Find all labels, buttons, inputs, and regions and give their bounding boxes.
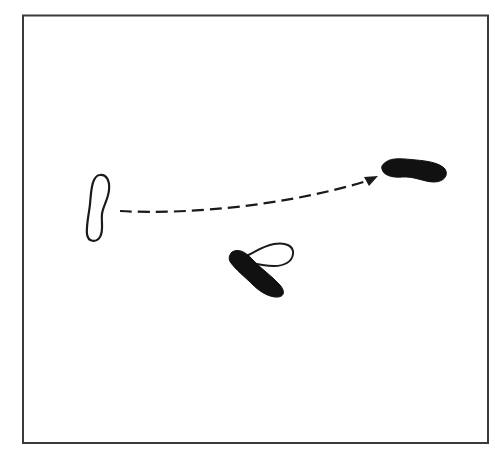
diagram-canvas	[0, 0, 495, 466]
footwork-diagram	[0, 0, 495, 466]
